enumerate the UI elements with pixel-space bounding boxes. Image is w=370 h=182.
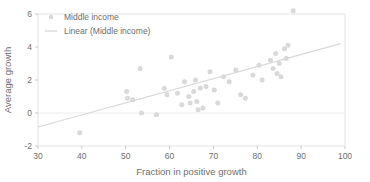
x-tick-label: 90: [296, 151, 306, 161]
x-tick-label: 80: [253, 151, 263, 161]
data-point: [77, 130, 82, 135]
legend-label: Linear (Middle income): [64, 26, 151, 36]
data-point: [175, 91, 180, 96]
data-point: [227, 79, 232, 84]
data-point: [188, 101, 193, 106]
data-point: [215, 101, 220, 106]
data-point: [275, 71, 280, 76]
data-point: [186, 94, 191, 99]
x-tick-label: 40: [77, 151, 87, 161]
data-point: [179, 102, 184, 107]
legend: Middle incomeLinear (Middle income): [45, 12, 151, 36]
data-point: [285, 43, 290, 48]
x-tick-label: 60: [165, 151, 175, 161]
data-point: [207, 69, 212, 74]
x-tick-label: 100: [338, 151, 352, 161]
data-point: [271, 66, 276, 71]
y-tick-label: 6: [27, 9, 32, 19]
x-axis-title: Fraction in positive growth: [136, 166, 246, 177]
data-point: [194, 99, 199, 104]
data-point: [169, 54, 174, 59]
data-point: [250, 73, 255, 78]
data-point: [125, 96, 130, 101]
scatter-chart: 30405060708090100-20246Fraction in posit…: [0, 0, 370, 182]
x-tick-label: 70: [209, 151, 219, 161]
legend-label: Middle income: [64, 12, 119, 22]
data-point: [198, 86, 203, 91]
y-tick-label: 0: [27, 108, 32, 118]
x-axis: 30405060708090100: [33, 146, 352, 161]
y-tick-label: 2: [27, 75, 32, 85]
legend-marker-circle: [49, 15, 53, 19]
data-point: [193, 78, 198, 83]
data-point: [278, 74, 283, 79]
y-axis: -20246: [24, 9, 38, 151]
y-tick-label: 4: [27, 42, 32, 52]
data-point: [203, 84, 208, 89]
data-point: [277, 61, 282, 66]
data-point: [138, 66, 143, 71]
x-tick-label: 50: [121, 151, 131, 161]
data-point: [273, 51, 278, 56]
data-point: [162, 86, 167, 91]
data-point: [212, 87, 217, 92]
data-point: [238, 92, 243, 97]
data-point: [200, 106, 205, 111]
data-point: [154, 112, 159, 117]
data-point: [139, 111, 144, 116]
data-point: [191, 89, 196, 94]
data-point: [164, 92, 169, 97]
trendline: [38, 44, 341, 127]
data-point: [182, 79, 187, 84]
chart-canvas: 30405060708090100-20246Fraction in posit…: [0, 0, 370, 182]
trendline-series: [38, 44, 341, 127]
x-tick-label: 30: [33, 151, 43, 161]
data-point: [243, 96, 248, 101]
y-tick-label: -2: [24, 141, 32, 151]
y-axis-title: Average growth: [2, 47, 13, 113]
data-point: [260, 78, 265, 83]
data-point: [291, 8, 296, 13]
data-point: [124, 89, 129, 94]
data-point: [196, 107, 201, 112]
